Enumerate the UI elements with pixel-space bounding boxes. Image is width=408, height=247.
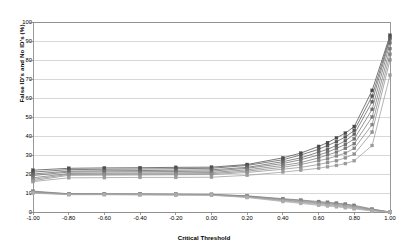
data-point-marker: [174, 176, 177, 179]
data-point-marker: [344, 132, 347, 135]
data-point-marker: [326, 205, 329, 208]
series-line: [33, 60, 390, 181]
data-point-marker: [326, 148, 329, 151]
data-point-marker: [353, 147, 356, 150]
data-point-marker: [353, 137, 356, 140]
data-point-marker: [344, 143, 347, 146]
data-point-marker: [389, 47, 392, 50]
data-point-marker: [344, 135, 347, 138]
data-point-marker: [317, 167, 320, 170]
data-point-marker: [299, 158, 302, 161]
data-point-marker: [281, 171, 284, 174]
data-point-marker: [371, 144, 374, 147]
data-point-marker: [299, 169, 302, 172]
data-point-marker: [344, 147, 347, 150]
data-point-marker: [389, 38, 392, 41]
data-point-marker: [353, 153, 356, 156]
data-point-marker: [371, 100, 374, 103]
data-point-marker: [317, 159, 320, 162]
data-point-marker: [103, 176, 106, 179]
data-point-marker: [299, 154, 302, 157]
data-point-marker: [389, 41, 392, 44]
series-line: [33, 49, 390, 178]
data-point-marker: [317, 156, 320, 159]
data-point-marker: [326, 151, 329, 154]
data-point-marker: [326, 157, 329, 160]
data-point-marker: [335, 205, 338, 208]
data-point-marker: [326, 161, 329, 164]
series-false-ids: [32, 59, 392, 183]
data-point-marker: [335, 151, 338, 154]
x-axis-title: Critical Threshold: [0, 234, 408, 241]
data-point-marker: [344, 156, 347, 159]
data-point-marker: [335, 159, 338, 162]
data-point-marker: [317, 204, 320, 207]
data-point-marker: [335, 140, 338, 143]
data-point-marker: [67, 193, 70, 196]
data-point-marker: [335, 154, 338, 157]
data-point-marker: [326, 144, 329, 147]
data-point-marker: [299, 163, 302, 166]
data-point-marker: [335, 144, 338, 147]
data-point-marker: [335, 147, 338, 150]
data-point-marker: [353, 159, 356, 162]
data-point-marker: [326, 154, 329, 157]
data-point-marker: [344, 162, 347, 165]
data-point-marker: [344, 206, 347, 209]
data-point-marker: [281, 200, 284, 203]
data-point-marker: [344, 139, 347, 142]
data-point-marker: [317, 148, 320, 151]
data-point-marker: [371, 108, 374, 111]
data-point-marker: [353, 129, 356, 132]
data-point-marker: [371, 210, 374, 213]
data-point-marker: [389, 53, 392, 56]
data-point-marker: [353, 207, 356, 210]
data-point-marker: [246, 174, 249, 177]
data-point-marker: [246, 196, 249, 199]
data-point-marker: [32, 180, 35, 183]
data-point-marker: [335, 136, 338, 139]
chart-container: False ID's and No ID's (%) 0102030405060…: [0, 0, 408, 247]
data-point-marker: [353, 133, 356, 136]
plot-area: [0, 0, 408, 247]
data-point-marker: [371, 131, 374, 134]
data-point-marker: [389, 74, 392, 77]
data-point-marker: [210, 176, 213, 179]
data-point-marker: [103, 193, 106, 196]
data-point-marker: [317, 154, 320, 157]
data-point-marker: [389, 211, 392, 214]
data-point-marker: [299, 202, 302, 205]
data-point-marker: [299, 166, 302, 169]
data-point-marker: [210, 194, 213, 197]
data-point-marker: [281, 168, 284, 171]
data-point-marker: [335, 164, 338, 167]
data-point-marker: [139, 193, 142, 196]
data-point-marker: [317, 163, 320, 166]
data-point-marker: [317, 145, 320, 148]
data-point-marker: [344, 152, 347, 155]
data-point-marker: [174, 194, 177, 197]
data-point-marker: [326, 141, 329, 144]
data-point-marker: [246, 171, 249, 174]
data-point-marker: [139, 176, 142, 179]
data-point-marker: [353, 142, 356, 145]
data-point-marker: [67, 176, 70, 179]
data-point-marker: [371, 116, 374, 119]
data-point-marker: [317, 151, 320, 154]
data-point-marker: [371, 123, 374, 126]
data-point-marker: [32, 192, 35, 195]
data-point-marker: [326, 165, 329, 168]
data-point-marker: [389, 59, 392, 62]
